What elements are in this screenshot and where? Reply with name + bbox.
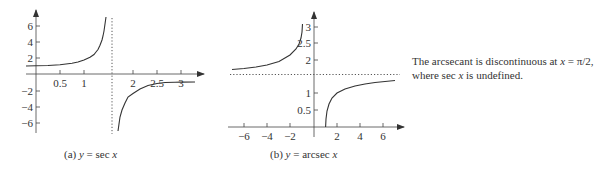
note-line-1: The arcsecant is discontinuous at x = π/… xyxy=(412,54,610,68)
svg-text:3: 3 xyxy=(306,21,312,33)
caption-b: (b) y = arcsec x xyxy=(270,148,337,160)
svg-text:1: 1 xyxy=(306,87,312,99)
chart-a-curve-left xyxy=(26,17,106,66)
chart-b-y-tick-labels: 3 2.5 2 1 0.5 xyxy=(297,21,311,116)
chart-a-y-ticks xyxy=(36,26,40,123)
svg-text:2: 2 xyxy=(130,77,136,89)
svg-text:4: 4 xyxy=(28,36,34,48)
chart-b-x-tick-labels: −6 −4 −2 2 4 6 xyxy=(238,130,386,142)
chart-b-y-ticks xyxy=(314,27,318,110)
svg-text:1: 1 xyxy=(81,77,87,89)
svg-text:−2: −2 xyxy=(284,130,296,142)
chart-b-x-ticks xyxy=(244,123,383,127)
svg-text:−6: −6 xyxy=(21,117,33,129)
svg-text:−2: −2 xyxy=(21,85,33,97)
side-note: The arcsecant is discontinuous at x = π/… xyxy=(412,54,610,82)
svg-text:3: 3 xyxy=(178,77,184,89)
svg-text:2: 2 xyxy=(28,52,34,64)
chart-b-curve-left xyxy=(232,24,303,70)
svg-text:0.5: 0.5 xyxy=(53,77,67,89)
svg-text:6: 6 xyxy=(380,130,386,142)
chart-b-curve-right xyxy=(326,81,395,128)
chart-a-curve-right xyxy=(118,82,195,131)
svg-text:4: 4 xyxy=(357,130,363,142)
svg-text:−4: −4 xyxy=(21,101,33,113)
svg-text:2: 2 xyxy=(334,130,340,142)
svg-text:6: 6 xyxy=(28,20,34,32)
chart-a-y-tick-labels: 6 4 2 −2 −4 −6 xyxy=(21,20,33,129)
svg-text:−6: −6 xyxy=(238,130,250,142)
chart-b-arcsec: 3 2.5 2 1 0.5 −6 −4 −2 2 4 6 xyxy=(228,12,404,142)
chart-a-x-ticks xyxy=(60,70,181,74)
svg-text:0.5: 0.5 xyxy=(297,104,311,116)
chart-a-sec: 6 4 2 −2 −4 −6 0.5 1 2 2.5 3 xyxy=(21,10,204,134)
caption-a: (a) y = sec x xyxy=(64,148,117,160)
svg-text:−4: −4 xyxy=(261,130,273,142)
note-line-2: where sec x is undefined. xyxy=(412,68,610,82)
svg-text:2: 2 xyxy=(306,54,312,66)
